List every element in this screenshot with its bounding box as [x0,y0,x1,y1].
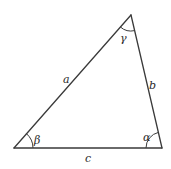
side-b [131,15,162,148]
side-b-label: b [149,79,156,92]
triangle-diagram: a b c β α γ [0,0,171,169]
angle-gamma-arc [120,27,134,31]
side-c-label: c [85,152,91,165]
angle-alpha-label: α [143,131,151,144]
angle-gamma-label: γ [120,32,127,45]
side-a [14,15,131,148]
angle-beta-label: β [33,134,40,147]
side-a-label: a [63,73,70,86]
angle-beta-arc [27,134,34,148]
